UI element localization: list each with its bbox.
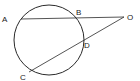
point-label-a: A bbox=[2, 15, 8, 24]
secant-line-c-o bbox=[29, 17, 124, 72]
point-label-d: D bbox=[84, 41, 90, 50]
geometry-diagram: A B O D C bbox=[0, 0, 140, 81]
point-label-c: C bbox=[20, 73, 26, 81]
point-label-b: B bbox=[76, 8, 81, 17]
point-label-o: O bbox=[127, 13, 133, 22]
circle bbox=[14, 5, 84, 75]
secant-line-a-o bbox=[21, 17, 124, 19]
